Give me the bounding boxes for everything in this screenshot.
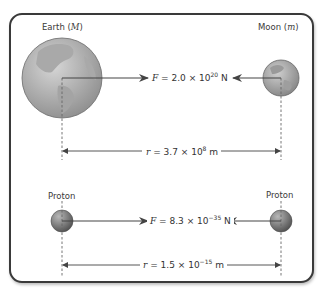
dashed-guides [62,78,281,276]
gravitation-diagram: Earth (M) Moon (m) F = 2.0 × 1020 N r = … [0,0,324,289]
force-equation-top: F = 2.0 × 1020 N [149,71,231,83]
distance-equation-bottom: r = 1.5 × 10−15 m [140,258,227,270]
moon-label: Moon (m) [258,22,299,32]
force-equation-bottom: F = 8.3 × 10−35 N [147,214,234,226]
proton-right-label: Proton [266,190,293,200]
distance-equation-top: r = 3.7 × 108 m [143,145,221,157]
proton-left-label: Proton [48,191,75,201]
earth-label: Earth (M) [42,22,83,32]
